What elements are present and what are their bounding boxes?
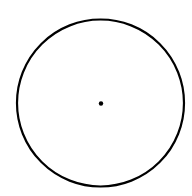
- background: [0, 0, 192, 196]
- diagram-canvas: [0, 0, 192, 196]
- center-point: [99, 101, 103, 105]
